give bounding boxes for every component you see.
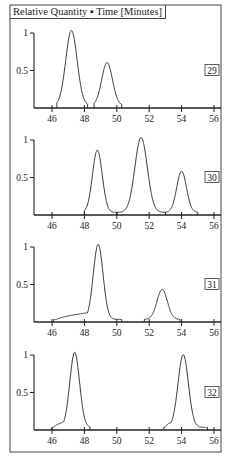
peak-trace <box>165 171 197 215</box>
y-tick-label: 0.5 <box>16 173 28 183</box>
x-tick-label: 52 <box>144 221 154 231</box>
y-tick-label: 1 <box>23 135 28 145</box>
x-tick-label: 54 <box>177 328 187 338</box>
y-tick-label: 0.5 <box>16 66 28 76</box>
x-tick-label: 54 <box>177 436 187 446</box>
peak-trace <box>84 150 116 215</box>
x-tick-label: 56 <box>209 221 219 231</box>
peak-trace <box>164 355 208 430</box>
chart-panel-30: 0.5146485052545630 <box>16 135 221 231</box>
x-tick-label: 54 <box>177 221 187 231</box>
x-tick-label: 48 <box>80 436 90 446</box>
chromatogram-figure: 0.51464850525456290.51464850525456300.51… <box>0 0 229 457</box>
peak-trace <box>54 244 122 322</box>
panel-label: 29 <box>207 66 217 76</box>
panel-label: 30 <box>207 173 217 183</box>
x-tick-label: 50 <box>112 436 122 446</box>
x-tick-label: 46 <box>47 436 57 446</box>
x-tick-label: 54 <box>177 114 187 124</box>
y-tick-label: 1 <box>23 28 28 38</box>
peak-trace <box>117 137 166 215</box>
panel-label: 32 <box>207 388 217 398</box>
x-tick-label: 46 <box>47 221 57 231</box>
panel-label: 31 <box>207 280 217 290</box>
x-tick-label: 46 <box>47 328 57 338</box>
x-tick-label: 56 <box>209 114 219 124</box>
x-tick-label: 52 <box>144 328 154 338</box>
x-tick-label: 50 <box>112 114 122 124</box>
y-tick-label: 0.5 <box>16 280 28 290</box>
x-tick-label: 46 <box>47 114 57 124</box>
peak-trace <box>57 30 88 108</box>
peak-trace <box>144 289 180 322</box>
chart-canvas: 0.51464850525456290.51464850525456300.51… <box>0 0 229 457</box>
chart-panel-31: 0.5146485052545631 <box>16 242 221 338</box>
x-tick-label: 56 <box>209 328 219 338</box>
peak-trace <box>52 352 90 430</box>
x-tick-label: 50 <box>112 328 122 338</box>
x-tick-label: 52 <box>144 436 154 446</box>
x-tick-label: 52 <box>144 114 154 124</box>
x-tick-label: 50 <box>112 221 122 231</box>
y-tick-label: 1 <box>23 350 28 360</box>
x-tick-label: 48 <box>80 114 90 124</box>
x-tick-label: 56 <box>209 436 219 446</box>
x-tick-label: 48 <box>80 221 90 231</box>
x-tick-label: 48 <box>80 328 90 338</box>
y-tick-label: 1 <box>23 242 28 252</box>
chart-panel-32: 0.5146485052545632 <box>16 350 221 446</box>
chart-panel-29: 0.5146485052545629 <box>16 28 221 124</box>
peak-trace <box>94 63 122 108</box>
y-tick-label: 0.5 <box>16 388 28 398</box>
figure-header: Relative Quantity ▪ Time [Minutes] <box>10 5 166 19</box>
